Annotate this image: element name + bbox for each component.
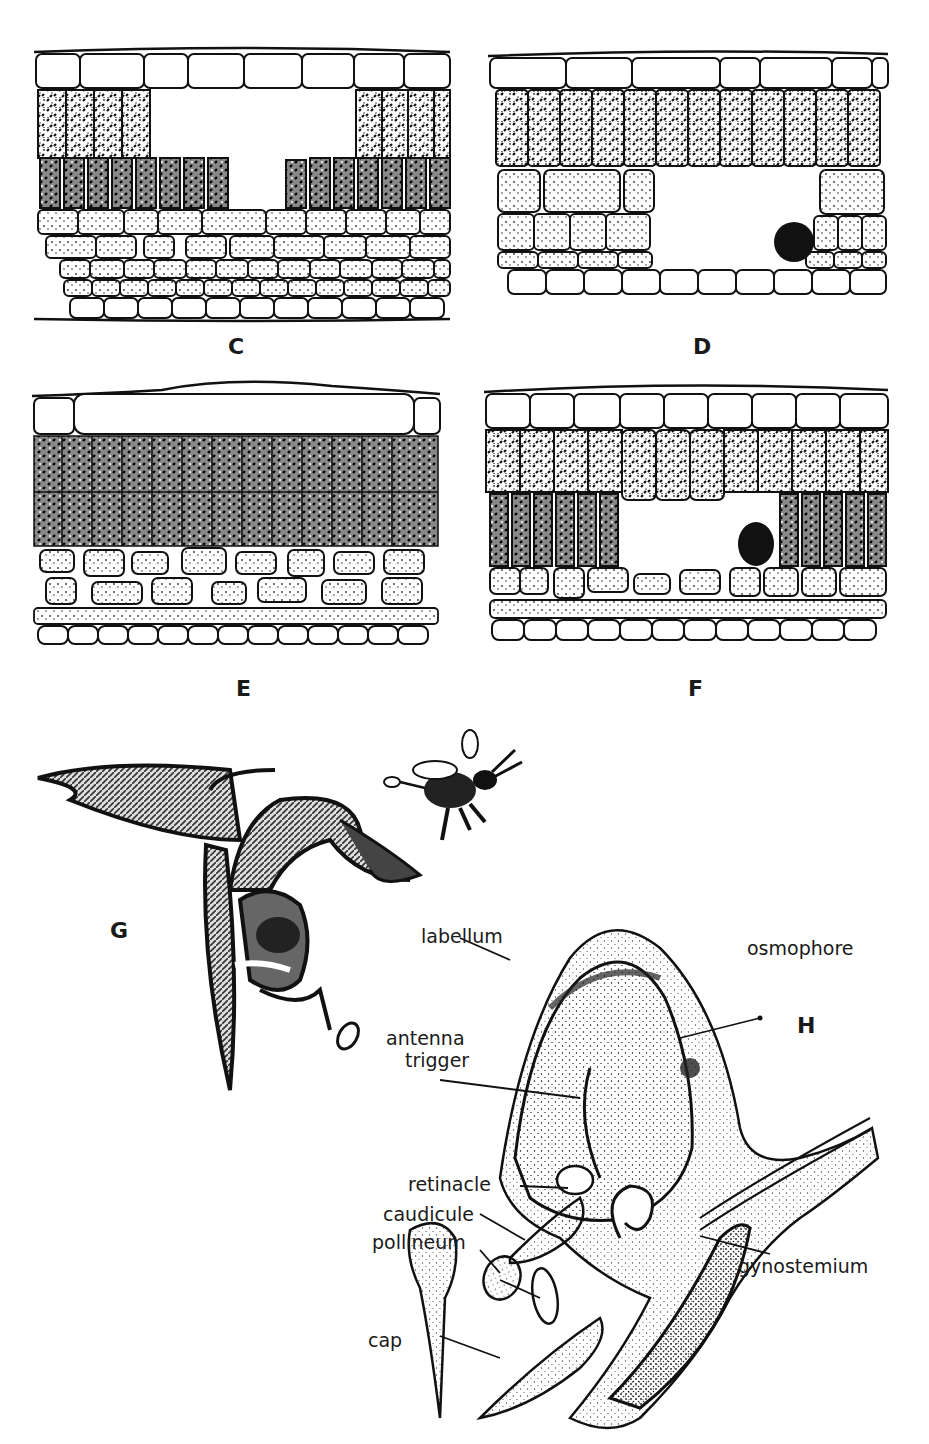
callout-retinacle: retinacle: [408, 1174, 491, 1194]
panel-d-leaf-section: [488, 52, 888, 302]
panel-label-e: E: [236, 676, 251, 701]
panel-c-leaf-section: [34, 48, 450, 320]
callout-cap: cap: [368, 1330, 402, 1350]
panel-label-f: F: [688, 676, 703, 701]
callout-caudicule: caudicule: [383, 1204, 474, 1224]
callout-labellum: labellum: [421, 926, 503, 946]
panel-label-d: D: [693, 334, 711, 359]
bee-icon: [384, 730, 522, 840]
panel-f-leaf-section: [484, 384, 888, 642]
panel-e-leaf-section: [32, 382, 440, 644]
panel-label-c: C: [228, 334, 244, 359]
panel-label-g: G: [110, 918, 128, 943]
callout-trigger: trigger: [405, 1050, 469, 1070]
callout-antenna: antenna: [386, 1028, 465, 1048]
dark-body: [738, 522, 774, 566]
dark-body: [774, 222, 814, 262]
panel-label-h: H: [797, 1013, 815, 1038]
callout-gynostemium: gynostemium: [738, 1256, 868, 1276]
callout-osmophore: osmophore: [747, 938, 853, 958]
callout-pollineum: pollineum: [372, 1232, 466, 1252]
